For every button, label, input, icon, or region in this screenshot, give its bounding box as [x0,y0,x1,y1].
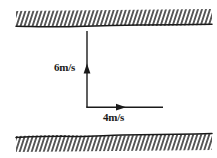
bottom-bank-hatching [10,134,217,158]
horizontal-velocity-label: 4m/s [103,112,124,123]
physics-vector-diagram: 6m/s 4m/s [0,0,217,158]
horizontal-velocity-vector [86,104,163,111]
vertical-velocity-vector [84,31,91,108]
bottom-bank [10,134,217,158]
diagram-canvas [0,0,217,158]
vertical-vector-arrowhead [84,64,91,74]
top-bank [10,4,217,30]
vertical-velocity-label: 6m/s [54,62,75,73]
horizontal-vector-arrowhead [116,104,126,111]
